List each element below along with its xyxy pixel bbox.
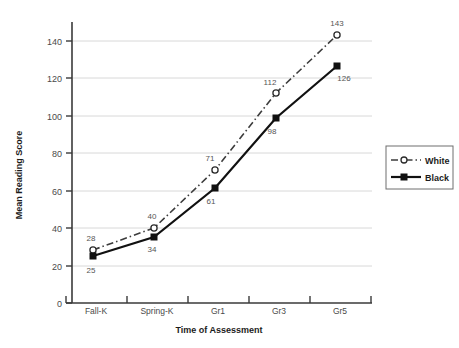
y-tick-label: 40 [52,224,62,234]
y-tick-labels: 140 120 100 80 60 40 20 0 [47,37,62,309]
series-black-marker [212,185,219,192]
y-tick-label: 80 [52,149,62,159]
point-label: 25 [87,266,96,275]
point-label: 71 [206,154,215,163]
series-white-marker [273,90,279,96]
reading-score-line-chart: 140 120 100 80 60 40 20 0 Fall-K Spring-… [0,0,459,348]
point-label: 34 [148,245,157,254]
y-tick-label: 100 [47,112,62,122]
series-black-marker [334,63,341,70]
y-tick-label: 120 [47,74,62,84]
point-label: 126 [337,74,351,83]
point-label: 28 [87,234,96,243]
x-tick-label-gr1: Gr1 [211,306,225,316]
x-tick-label-spring-k: Spring-K [140,306,173,316]
point-label: 40 [148,212,157,221]
series-white-point-labels: 28 40 71 112 143 [87,19,345,243]
x-tick-label-gr5: Gr5 [333,306,347,316]
point-label: 61 [207,197,216,206]
series-white-marker [212,167,218,173]
series-white-line [93,35,337,250]
y-tick-label: 20 [52,262,62,272]
x-tick-label-gr3: Gr3 [272,306,286,316]
legend[interactable]: White Black [386,146,453,189]
x-tick-label-fall-k: Fall-K [85,306,108,316]
legend-marker-open-circle-icon [401,157,407,163]
legend-label-white: White [425,156,450,166]
x-axis [66,296,372,303]
x-axis-title: Time of Assessment [175,325,262,335]
series-white-marker [151,225,157,231]
point-label: 112 [264,78,277,87]
chart-canvas: 140 120 100 80 60 40 20 0 Fall-K Spring-… [0,0,459,348]
x-tick-labels: Fall-K Spring-K Gr1 Gr3 Gr5 [85,306,347,316]
series-black-marker [151,234,158,241]
y-tick-label: 140 [47,37,62,47]
y-tick-label: 60 [52,187,62,197]
legend-marker-filled-square-icon [401,174,408,181]
series-black-marker [90,253,97,260]
y-tick-label: 0 [57,299,62,309]
y-axis [66,22,72,303]
series-white [90,32,340,253]
legend-box [386,146,453,189]
point-label: 98 [268,127,277,136]
series-black-marker [273,115,280,122]
series-black [90,63,341,260]
y-axis-title: Mean Reading Score [14,131,24,220]
series-white-marker [90,247,96,253]
series-white-marker [334,32,340,38]
legend-label-black: Black [425,173,450,183]
point-label: 143 [330,19,344,28]
